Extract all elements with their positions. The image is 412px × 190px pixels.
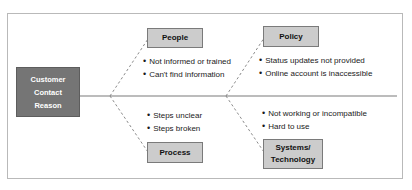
bullet-dot-icon: • — [262, 120, 265, 133]
cause-text: Steps broken — [153, 122, 200, 135]
bullet-dot-icon: • — [147, 122, 150, 135]
cause-list-process: • Steps unclear • Steps broken — [147, 109, 202, 135]
bullet-dot-icon: • — [147, 109, 150, 122]
cause-text: Status updates not provided — [265, 54, 365, 67]
cause-item: • Steps unclear — [147, 109, 202, 122]
category-box-policy[interactable]: Policy — [263, 26, 319, 47]
category-box-people[interactable]: People — [147, 28, 203, 48]
category-box-process[interactable]: Process — [147, 142, 203, 163]
cause-item: • Not informed or trained — [143, 55, 231, 68]
cause-item: • Status updates not provided — [259, 54, 372, 67]
cause-text: Hard to use — [268, 120, 309, 133]
effect-box-customer-contact-reason[interactable]: Customer Contact Reason — [16, 67, 80, 117]
effect-label-line-1: Customer — [30, 73, 65, 86]
cause-list-policy: • Status updates not provided • Online a… — [259, 54, 372, 80]
category-label-systems-line-2: Technology — [271, 154, 315, 166]
bullet-dot-icon: • — [259, 54, 262, 67]
cause-item: • Can't find information — [143, 68, 231, 81]
effect-label-line-3: Reason — [34, 99, 61, 112]
cause-list-systems-technology: • Not working or incompatible • Hard to … — [262, 107, 367, 133]
category-label-systems-line-1: Systems/ — [275, 142, 310, 154]
category-label-policy: Policy — [279, 31, 303, 43]
cause-item: • Not working or incompatible — [262, 107, 367, 120]
bullet-dot-icon: • — [262, 107, 265, 120]
cause-item: • Steps broken — [147, 122, 202, 135]
cause-text: Not informed or trained — [149, 55, 231, 68]
cause-item: • Hard to use — [262, 120, 367, 133]
bullet-dot-icon: • — [259, 67, 262, 80]
cause-list-people: • Not informed or trained • Can't find i… — [143, 55, 231, 81]
effect-label-line-2: Contact — [34, 86, 62, 99]
bullet-dot-icon: • — [143, 55, 146, 68]
cause-text: Can't find information — [149, 68, 224, 81]
cause-item: • Online account is inaccessible — [259, 67, 372, 80]
cause-text: Not working or incompatible — [268, 107, 367, 120]
cause-text: Steps unclear — [153, 109, 202, 122]
bullet-dot-icon: • — [143, 68, 146, 81]
cause-text: Online account is inaccessible — [265, 67, 372, 80]
category-label-people: People — [162, 32, 188, 44]
category-label-process: Process — [159, 147, 190, 159]
category-box-systems-technology[interactable]: Systems/ Technology — [263, 139, 323, 169]
fishbone-diagram-canvas: Customer Contact Reason People • Not inf… — [0, 0, 412, 190]
